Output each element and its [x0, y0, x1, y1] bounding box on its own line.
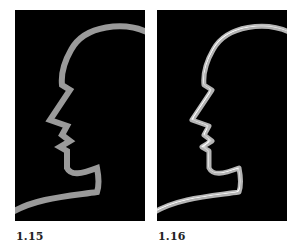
- head-profile-embossed-icon: [157, 10, 287, 221]
- figure-caption-1-15: 1.15: [16, 230, 44, 243]
- figure-1-15-panel: [15, 10, 145, 221]
- figure-caption-1-16: 1.16: [158, 230, 186, 243]
- figure-1-16-panel: [157, 10, 287, 221]
- head-profile-flat-icon: [15, 10, 145, 221]
